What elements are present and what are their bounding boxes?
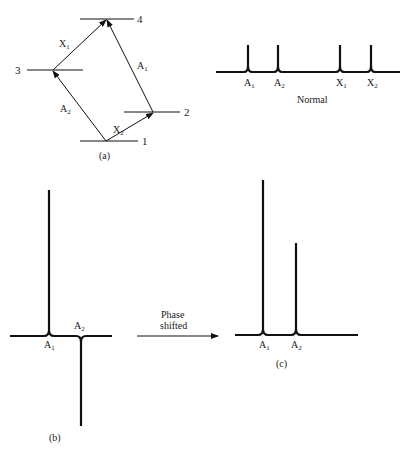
caption-b: (b) [49,432,61,444]
transition-x2-label: X2 [113,124,124,137]
normal-spectrum-trace [216,45,400,72]
normal-peak-a1-label: A1 [244,77,255,90]
phase-shift-arrow-group: Phase shifted [137,309,218,336]
level-1-label: 1 [142,135,148,147]
spectrum-b-trace [10,190,112,426]
level-2-label: 2 [184,106,190,118]
transition-a1-label: A1 [137,60,148,73]
normal-spectrum: A1 A2 X1 X2 Normal [216,45,400,105]
spectrum-c-trace [235,180,358,335]
diagram-canvas: 1 2 3 4 A2 X2 X1 A1 (a) A1 A2 X1 X2 Norm… [0,0,403,449]
transition-x1-label: X1 [59,38,70,51]
c-peak-a1-label: A1 [259,339,270,352]
b-peak-a2-label: A2 [74,320,85,333]
normal-peak-a2-label: A2 [274,77,285,90]
phase-label: Phase [161,309,185,320]
normal-caption: Normal [297,94,328,105]
transition-a2-label: A2 [60,103,71,116]
level-3-label: 3 [15,64,21,76]
shifted-label: shifted [160,320,187,331]
level-4-label: 4 [137,13,143,25]
c-peak-a2-label: A2 [291,339,302,352]
spectrum-b: A1 A2 (b) [10,190,112,444]
b-peak-a1-label: A1 [44,339,55,352]
energy-level-diagram: 1 2 3 4 A2 X2 X1 A1 (a) [15,13,190,162]
spectrum-c: A1 A2 (c) [235,180,358,370]
caption-c: (c) [276,358,287,370]
caption-a: (a) [99,150,110,162]
normal-peak-x2-label: X2 [367,77,378,90]
normal-peak-x1-label: X1 [336,77,347,90]
